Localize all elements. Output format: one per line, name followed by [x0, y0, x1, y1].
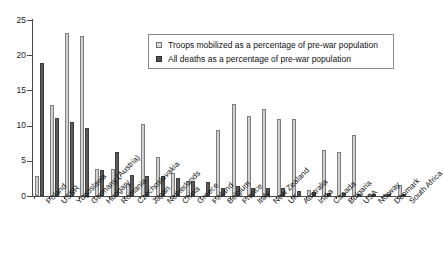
bar-troops — [277, 119, 281, 196]
y-tick-label: 20 — [2, 51, 26, 59]
bar-deaths — [40, 63, 44, 196]
y-tick-label: 15 — [2, 86, 26, 94]
y-tick-label: 25 — [2, 16, 26, 24]
y-tick-mark — [27, 126, 32, 127]
bar-group — [63, 20, 78, 196]
y-tick-mark — [27, 20, 32, 21]
y-tick-mark — [27, 196, 32, 197]
bar-troops — [262, 109, 266, 196]
y-tick-label: 5 — [2, 156, 26, 164]
y-tick-mark — [27, 161, 32, 162]
bar-group — [396, 20, 411, 196]
bar-troops — [50, 105, 54, 196]
y-tick-mark — [27, 90, 32, 91]
bar-group — [93, 20, 108, 196]
legend-item-troops: Troops mobilized as a percentage of pre-… — [156, 39, 378, 51]
bar-troops — [65, 33, 69, 196]
bar-group — [78, 20, 93, 196]
open-square-icon — [156, 42, 162, 48]
bar-group — [48, 20, 63, 196]
bar-group — [33, 20, 48, 196]
chart-legend: Troops mobilized as a percentage of pre-… — [148, 34, 394, 69]
legend-item-troops-label: Troops mobilized as a percentage of pre-… — [168, 41, 378, 50]
y-tick-label: 10 — [2, 121, 26, 129]
bar-troops — [35, 176, 39, 196]
bar-troops — [80, 36, 84, 197]
legend-item-deaths-label: All deaths as a percentage of pre-war po… — [168, 55, 351, 64]
bar-troops — [232, 104, 236, 196]
filled-square-icon — [156, 56, 162, 62]
legend-item-deaths: All deaths as a percentage of pre-war po… — [156, 53, 351, 65]
y-tick-mark — [27, 55, 32, 56]
x-axis-category-labels: PolandUSSRYugoslaviaGermany (Austria)Hun… — [0, 196, 419, 271]
